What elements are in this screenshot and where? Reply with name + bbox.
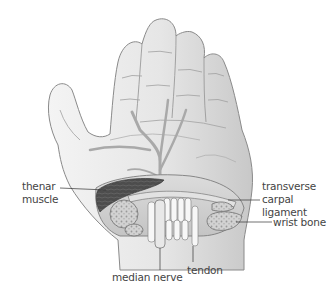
label-tendon: tendon bbox=[187, 264, 223, 277]
label-line: carpal bbox=[262, 193, 316, 206]
label-median-nerve: median nerve bbox=[112, 271, 182, 284]
label-line: muscle bbox=[22, 193, 58, 206]
label-line: thenar bbox=[22, 180, 58, 193]
label-thenar-muscle: thenar muscle bbox=[22, 180, 58, 206]
label-line: wrist bone bbox=[273, 216, 326, 229]
label-transverse-carpal-ligament: transverse carpal ligament bbox=[262, 180, 316, 219]
label-line: median nerve bbox=[112, 271, 182, 284]
label-line: tendon bbox=[187, 264, 223, 277]
hand-anatomy-illustration bbox=[0, 0, 334, 299]
label-wrist-bone: wrist bone bbox=[273, 216, 326, 229]
label-line: transverse bbox=[262, 180, 316, 193]
median-nerve-shape bbox=[155, 200, 165, 248]
